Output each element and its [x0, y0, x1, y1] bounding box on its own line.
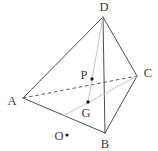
label-D: D — [99, 0, 108, 14]
point-dot-O — [65, 133, 68, 136]
label-P: P — [81, 68, 88, 82]
point-dot-P — [90, 77, 93, 80]
geometry-figure: DABCPGO — [0, 0, 158, 151]
label-O: O — [54, 129, 63, 143]
tetrahedron-diagram: DABCPGO — [0, 0, 158, 151]
label-B: B — [101, 137, 109, 151]
point-dot-G — [86, 100, 89, 103]
label-C: C — [144, 66, 152, 80]
label-G: G — [81, 106, 90, 120]
edge-D-C — [103, 17, 137, 76]
label-A: A — [7, 94, 16, 108]
edge-D-B — [103, 17, 105, 133]
